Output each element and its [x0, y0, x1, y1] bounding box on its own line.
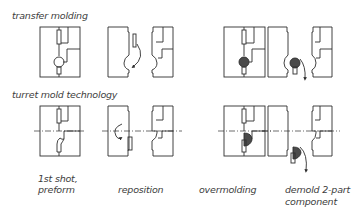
tm-mold-open-reposition [108, 27, 173, 77]
tm-mold-overmolding [224, 27, 265, 77]
turret-mold-reposition [102, 106, 182, 156]
turret-mold-demold [262, 106, 340, 171]
tm-mold-demold [268, 27, 332, 79]
process-diagram [0, 0, 359, 216]
tm-mold-closed [40, 27, 80, 77]
turret-mold-preform [34, 106, 86, 156]
